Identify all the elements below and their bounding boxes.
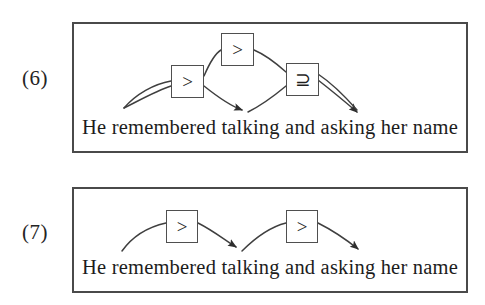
arc-left-box-to-top-box [204,50,221,76]
figure-container: (6) [0,0,485,305]
relation-box-greater-left-7: > [166,210,198,243]
arc-left-box-to-first-arrow-7 [198,223,236,247]
arc-right-box-to-end-arrow-7 [318,223,358,249]
arc-top-box-to-right-box [254,50,286,72]
arc-start-to-left-box-7 [122,223,166,251]
relation-box-superset-equal-right-6: ⊇ [286,63,319,96]
relation-box-greater-left-6: > [171,65,204,98]
arc-outer-to-end-arrow [318,74,357,110]
arc-left-into-left-box [124,81,171,108]
example-number-7: (7) [22,222,48,243]
arc-left-secondary [124,86,171,108]
example-caption-7: He remembered talking and asking her nam… [74,256,466,279]
arc-middle-to-right-box [248,86,286,112]
example-panel-6: > > ⊇ He remembered talking and asking h… [72,22,468,153]
example-caption-6: He remembered talking and asking her nam… [74,116,466,139]
relation-box-greater-top-6: > [221,33,254,66]
arc-right-box-to-end-arrow [318,80,357,112]
arc-middle-to-right-box-7 [242,223,286,251]
relation-box-greater-right-7: > [286,210,318,243]
example-number-6: (6) [22,68,48,89]
arc-left-box-to-middle-arrow [204,86,242,110]
example-panel-7: > > He remembered talking and asking her… [72,187,468,293]
